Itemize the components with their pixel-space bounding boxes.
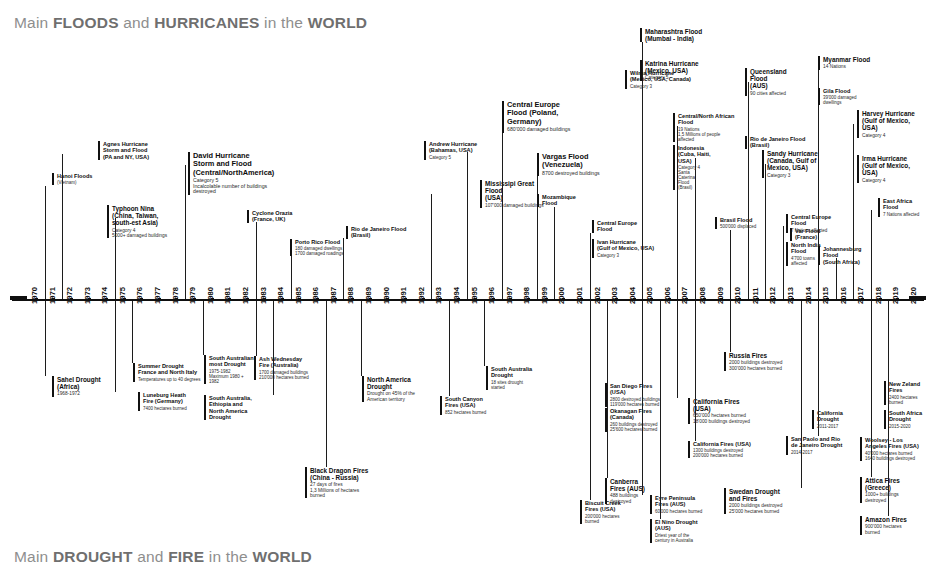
flood-title-johannesburg: JohannesburgFlood(South Africa) xyxy=(823,246,869,265)
axis-tick-dot xyxy=(123,298,126,301)
drought-event-summer-drought[interactable]: Summer DroughtFrance and North ItalyTemp… xyxy=(133,363,202,382)
flood-event-myanmar[interactable]: Myanmar Flood14 Nations xyxy=(818,56,877,70)
drought-event-black-dragon[interactable]: Black Dragon Fires(China - Russia)27 day… xyxy=(305,467,374,498)
drought-title-south-canyon: South CanyonFires (USA) xyxy=(445,396,501,409)
flood-event-cyclone-orazia[interactable]: Cyclone Orazia(France, UK) xyxy=(247,210,304,223)
drought-event-sa-ethiopia-na[interactable]: South Australia,Ethiopia andNorth Americ… xyxy=(204,395,261,420)
drought-stem-south-australian xyxy=(203,301,204,355)
flood-event-indonesia-haiti[interactable]: Indonesia(Cuba, Haiti,USA)Category 4Sant… xyxy=(673,145,720,190)
drought-event-south-australia-drought[interactable]: South AustraliaDrought18 sites drought s… xyxy=(486,366,537,390)
drought-title-summer-drought: Summer DroughtFrance and North Italy xyxy=(138,363,202,376)
flood-title-central-europe-13: Central EuropeFlood xyxy=(791,214,843,227)
flood-sub-david: Category 5Incalcolable number of buildin… xyxy=(193,178,275,195)
drought-sub-south-australia-drought: 18 sites drought started xyxy=(491,380,537,390)
flood-event-david[interactable]: David HurricaneStorm and Flood(Central/N… xyxy=(188,152,275,195)
infographic-canvas: Main FLOODS and HURRICANES in the WORLD … xyxy=(0,0,936,584)
flood-event-irma[interactable]: Irma Hurricane(Gulf of Mexico,USA)Catego… xyxy=(857,155,924,183)
axis-year-1992: 1992 xyxy=(417,287,426,304)
drought-event-eyre[interactable]: Eyre PeninsulaFires (AUS)60'000 hectares… xyxy=(650,495,707,514)
drought-event-luneburg[interactable]: Luneburg HeathFire (Germany)7400 hectare… xyxy=(138,392,201,411)
flood-event-rio-1988[interactable]: Rio de Janeiro Flood(Brasil) xyxy=(346,226,409,239)
flood-event-queensland[interactable]: QueenslandFlood(AUS)90 cities affected xyxy=(745,68,802,96)
drought-event-north-america-drought[interactable]: North AmericaDroughtDrought on 45% of th… xyxy=(362,376,429,402)
flood-event-central-europe-13[interactable]: Central EuropeFlood7 Nations affected xyxy=(786,214,843,233)
drought-event-amazon[interactable]: Amazon Fires900'000 hectaresburned xyxy=(860,516,921,535)
axis-year-2009: 2009 xyxy=(716,287,725,304)
axis-year-1981: 1981 xyxy=(223,287,232,304)
drought-sub-eyre: 60'000 hectares burned xyxy=(655,509,707,514)
axis-year-1982: 1982 xyxy=(241,287,250,304)
drought-title-attica: Attica Fires(Greece) xyxy=(865,477,921,491)
drought-title-el-nino: El Nino Drought(AUS) xyxy=(655,519,713,532)
axis-tick-dot xyxy=(211,298,214,301)
axis-year-1993: 1993 xyxy=(434,287,443,304)
drought-event-swedan[interactable]: Swedan Droughtand Fires2000 buildings de… xyxy=(724,488,795,514)
flood-sub-brasil-flood: 500'000 displaced xyxy=(720,224,768,229)
drought-stem-attica xyxy=(871,301,872,477)
flood-event-brasil-flood[interactable]: Brasil Flood500'000 displaced xyxy=(715,217,768,229)
axis-year-2015: 2015 xyxy=(821,287,830,304)
flood-sub-porto-rico: 180 damaged dwellings1700 damaged roadin… xyxy=(295,246,345,256)
flood-title-maharashtra: Maharashtra Flood(Mumbai - India) xyxy=(645,28,719,42)
flood-event-nina[interactable]: Typhoon Nina(China, Taiwan,south-est Asi… xyxy=(107,205,172,238)
drought-event-ash-wednesday[interactable]: Ash WednesdayFire (Australia)1700 damage… xyxy=(254,356,317,380)
drought-title-swedan: Swedan Droughtand Fires xyxy=(729,488,795,502)
flood-event-harvey[interactable]: Harvey Hurricane(Gulf of Mexico,USA)Cate… xyxy=(857,110,924,138)
flood-event-porto-rico[interactable]: Porto Rico Flood180 damaged dwellings170… xyxy=(290,239,345,256)
flood-stem-wilma xyxy=(642,84,643,299)
flood-event-hanoi[interactable]: Hanoi Floods(Vietnam) xyxy=(52,173,103,185)
drought-event-sahel[interactable]: Sahel Drought(Africa)1968-1972 xyxy=(52,376,111,397)
flood-event-mozambique[interactable]: MozambiqueFlood xyxy=(537,194,588,207)
drought-event-el-nino[interactable]: El Nino Drought(AUS)Driest year of thece… xyxy=(650,519,713,543)
drought-event-south-canyon[interactable]: South CanyonFires (USA)852 hectares burn… xyxy=(440,396,501,415)
flood-stem-mozambique xyxy=(554,207,555,299)
drought-stem-amazon xyxy=(888,301,889,516)
axis-tick-dot xyxy=(527,298,530,301)
flood-event-east-africa[interactable]: East AfricaFlood7 Nations affected xyxy=(878,198,931,217)
flood-event-gila[interactable]: Gila Flood39'000 damageddwellings xyxy=(818,88,869,105)
axis-year-1984: 1984 xyxy=(276,287,285,304)
flood-event-wilma[interactable]: Wilma Hurricane(Mexico, USA, Canada)Cate… xyxy=(625,70,700,89)
drought-event-biscuit[interactable]: Biscuit CreekFires (USA)200'000 hectares… xyxy=(580,500,637,524)
flood-event-sandy[interactable]: Sandy Hurricane(Canada, Gulf ofMexico, U… xyxy=(762,150,833,178)
flood-event-central-europe-97[interactable]: Central EuropeFlood (Poland,Germany)680'… xyxy=(502,101,571,133)
axis-year-1971: 1971 xyxy=(48,287,57,304)
flood-event-central-north-africa[interactable]: Central/North AfricanFlood19 Nations1,5 … xyxy=(673,113,738,142)
axis-year-1974: 1974 xyxy=(100,287,109,304)
drought-event-san-paolo[interactable]: San Paolo and Riode Janeiro Drought2014-… xyxy=(786,436,853,455)
drought-sub-woolsey: 40'000 hectares burned1640 buildings des… xyxy=(865,451,935,461)
drought-stem-eyre xyxy=(642,301,643,495)
axis-year-1990: 1990 xyxy=(382,287,391,304)
drought-event-california-fires[interactable]: California Fires(USA)650'000 hectares bu… xyxy=(688,398,753,424)
flood-stem-brasil-flood xyxy=(730,230,731,299)
flood-sub-myanmar: 14 Nations xyxy=(823,64,877,69)
axis-year-1986: 1986 xyxy=(311,287,320,304)
axis-year-2014: 2014 xyxy=(804,287,813,304)
axis-tick-dot xyxy=(492,298,495,301)
drought-event-russia-fires[interactable]: Russia Fires2000 buildings destroyed300'… xyxy=(724,352,793,371)
drought-event-new-zeland[interactable]: New ZelandFires2400 hectaresburned xyxy=(884,381,936,405)
flood-title-andrew: Andrew Hurricane(Bahamas, USA) xyxy=(429,141,491,154)
flood-event-maharashtra[interactable]: Maharashtra Flood(Mumbai - India) xyxy=(640,28,719,42)
flood-event-rio-2011[interactable]: Rio de Janeiro Flood(Brasil) xyxy=(745,136,806,149)
drought-stem-south-australia-drought xyxy=(484,301,485,366)
flood-stem-gila xyxy=(818,100,819,299)
axis-year-2018: 2018 xyxy=(874,287,883,304)
axis-year-1988: 1988 xyxy=(346,287,355,304)
flood-event-central-europe-02[interactable]: Central EuropeFlood xyxy=(592,220,645,233)
flood-event-ivan[interactable]: Ivan Hurricane(Gulf of Mexico, USA)Categ… xyxy=(592,239,663,258)
flood-event-vargas[interactable]: Vargas Flood(Venezuela)8700 destroyed bu… xyxy=(537,153,604,176)
axis-year-2007: 2007 xyxy=(680,287,689,304)
drought-event-attica[interactable]: Attica Fires(Greece)1000+ buildingsdestr… xyxy=(860,477,921,503)
drought-event-california-fires-2[interactable]: California Fires (USA)1300 buildings des… xyxy=(688,441,755,458)
flood-event-johannesburg[interactable]: JohannesburgFlood(South Africa) xyxy=(818,246,869,265)
title-bottom-fire: FIRE xyxy=(168,548,204,565)
flood-event-agnes[interactable]: Agnes HurricaneStorm and Flood(PA and NY… xyxy=(98,141,159,160)
drought-event-california-drought[interactable]: CaliforniaDrought2011-2017 xyxy=(812,410,867,429)
drought-title-sahel: Sahel Drought(Africa) xyxy=(57,376,111,390)
flood-event-mississipi[interactable]: Mississipi GreatFlood(USA)107'000 damage… xyxy=(480,180,545,208)
flood-event-andrew[interactable]: Andrew Hurricane(Bahamas, USA)Category 5 xyxy=(424,141,491,160)
drought-title-canberra: CanberraFires (AUS) xyxy=(610,478,662,492)
drought-sub-luneburg: 7400 hectares burned xyxy=(143,406,201,411)
drought-event-south-africa-drought[interactable]: South AfricaDrought2015-2020 xyxy=(884,410,936,429)
